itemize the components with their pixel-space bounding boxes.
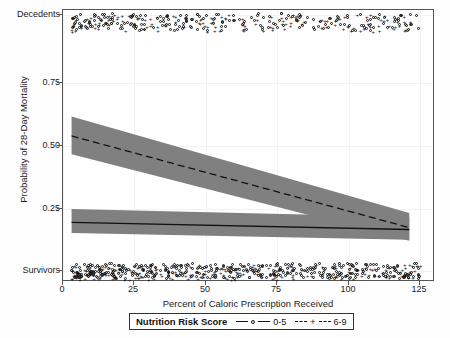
plus-marker-icon: + [409, 19, 413, 25]
circle-marker-icon [76, 18, 79, 21]
plus-marker-icon: + [377, 273, 381, 279]
plus-marker-icon: + [252, 262, 256, 268]
plus-marker-icon: + [292, 12, 296, 18]
circle-marker-icon [351, 264, 354, 267]
plus-marker-icon: + [333, 263, 337, 269]
plus-marker-icon: + [97, 276, 101, 282]
circle-marker-icon [169, 28, 172, 31]
circle-marker-icon [201, 267, 204, 270]
y-tick-label-survivors: Survivors [22, 265, 60, 275]
circle-marker-icon [170, 266, 173, 269]
circle-marker-icon [145, 273, 148, 276]
circle-marker-icon [167, 275, 170, 278]
plus-marker-icon: + [289, 20, 293, 26]
plus-marker-icon: + [231, 274, 235, 280]
plus-marker-icon: + [198, 20, 202, 26]
circle-marker-icon [369, 29, 372, 32]
plus-marker-icon: + [104, 272, 108, 278]
plus-marker-icon: + [352, 25, 356, 31]
x-tick-label-50: 50 [200, 284, 210, 294]
plus-marker-icon: + [220, 14, 224, 20]
plus-marker-icon: + [159, 271, 163, 277]
circle-marker-icon [242, 269, 245, 272]
plus-marker-icon: + [134, 263, 138, 269]
plus-marker-icon: + [204, 264, 208, 270]
circle-marker-icon [171, 271, 174, 274]
circle-marker-icon [179, 272, 182, 275]
y-axis-title: Probability of 28-Day Mortality [18, 25, 29, 255]
plus-marker-icon: + [369, 266, 373, 272]
plus-marker-icon: + [87, 20, 91, 26]
plus-marker-icon: + [144, 17, 148, 23]
y-tick-label-decedents: Decedents [17, 9, 60, 19]
plus-marker-icon: + [267, 265, 271, 271]
circle-marker-icon [176, 28, 179, 31]
plus-marker-icon: + [218, 28, 222, 34]
circle-marker-icon [392, 275, 395, 278]
plus-marker-icon: + [280, 274, 284, 280]
plus-marker-icon: + [385, 274, 389, 280]
plus-marker-icon: + [213, 28, 217, 34]
circle-marker-icon [155, 272, 158, 275]
circle-marker-icon [101, 13, 104, 16]
plus-marker-icon: + [408, 262, 412, 268]
plus-marker-icon: + [416, 263, 420, 269]
plus-marker-icon: + [149, 23, 153, 29]
x-tick-label-125: 125 [411, 284, 426, 294]
circle-marker-icon [346, 14, 349, 17]
plot-area: ++++++++++++++++++++++++++++++++++++++++… [62, 9, 434, 281]
legend-line-solid-icon [258, 321, 270, 322]
plus-marker-icon: + [300, 21, 304, 27]
circle-marker-icon [149, 269, 152, 272]
circle-marker-icon [261, 265, 264, 268]
plus-marker-icon: + [355, 266, 359, 272]
plus-marker-icon: + [226, 276, 230, 282]
plus-marker-icon: + [219, 270, 223, 276]
circle-marker-icon [182, 25, 185, 28]
circle-marker-icon [126, 21, 129, 24]
circle-marker-icon [124, 277, 127, 280]
circle-marker-icon [417, 273, 420, 276]
legend-label-0-5: 0-5 [273, 317, 286, 327]
circle-marker-icon [253, 19, 256, 22]
plus-marker-icon: + [108, 265, 112, 271]
x-axis-title: Percent of Caloric Prescription Received [62, 298, 434, 309]
plus-marker-icon: + [121, 264, 125, 270]
figure-canvas: Probability of 28-Day Mortality Decedent… [0, 0, 450, 338]
circle-marker-icon [382, 272, 385, 275]
circle-marker-icon [168, 23, 171, 26]
plus-marker-icon: + [212, 274, 216, 280]
plus-marker-icon: + [299, 12, 303, 18]
circle-marker-icon [412, 275, 415, 278]
plus-marker-icon: + [372, 29, 376, 35]
circle-marker-icon [269, 273, 272, 276]
plus-marker-icon: + [121, 13, 125, 19]
plus-marker-icon: + [164, 23, 168, 29]
plus-marker-icon: + [156, 24, 160, 30]
plus-marker-icon: + [315, 262, 319, 268]
circle-marker-icon [328, 273, 331, 276]
plus-marker-icon: + [334, 273, 338, 279]
circle-marker-icon [180, 266, 183, 269]
plus-marker-icon: + [403, 262, 407, 268]
plus-marker-icon: + [361, 267, 365, 273]
legend-entry-0-5[interactable]: 0-5 [236, 317, 286, 327]
circle-marker-icon [306, 16, 309, 19]
circle-marker-icon [91, 25, 94, 28]
plus-marker-icon: + [387, 23, 391, 29]
x-tick-label-0: 0 [59, 284, 64, 294]
circle-marker-icon [365, 263, 368, 266]
legend-entry-6-9[interactable]: + 6-9 [295, 317, 346, 327]
plus-marker-icon: + [320, 17, 324, 23]
plus-marker-icon: + [271, 27, 275, 33]
circle-marker-icon [99, 268, 102, 271]
plus-marker-icon: + [143, 26, 147, 32]
circle-marker-icon [202, 27, 205, 30]
circle-marker-icon [110, 22, 113, 25]
circle-marker-icon [304, 21, 307, 24]
plus-marker-icon: + [120, 271, 124, 277]
plus-marker-icon: + [283, 26, 287, 32]
plus-marker-icon: + [254, 21, 258, 27]
circle-marker-icon [295, 18, 298, 21]
plus-marker-icon: + [74, 28, 78, 34]
